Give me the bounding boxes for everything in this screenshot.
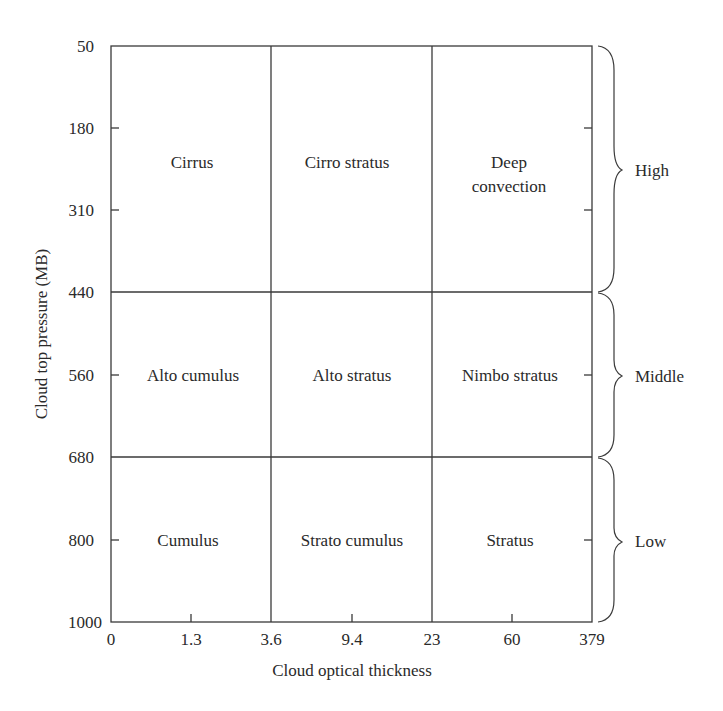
cell-stratus: Stratus [486,531,533,550]
y-tick-label: 440 [69,283,95,302]
cell-alto-stratus: Alto stratus [313,366,392,385]
x-tick-label: 1.3 [180,630,201,649]
cloud-classification-diagram: 50 180 310 440 560 680 800 1000 0 1.3 3.… [0,0,723,711]
y-tick-label: 310 [69,201,95,220]
cell-cirro-stratus: Cirro stratus [305,153,390,172]
y-tick-label: 180 [69,119,95,138]
cell-cumulus: Cumulus [157,531,218,550]
cell-nimbo-stratus: Nimbo stratus [462,366,558,385]
x-tick-label: 60 [504,630,521,649]
y-tick-label: 800 [69,531,95,550]
cell-deep-convection-line2: convection [472,177,547,196]
x-tick-label: 3.6 [260,630,281,649]
y-axis-title: Cloud top pressure (MB) [32,249,51,419]
band-label-high: High [635,161,670,180]
x-axis-tick-labels: 0 1.3 3.6 9.4 23 60 379 [107,630,605,649]
row-low-cells: Cumulus Strato cumulus Stratus [157,531,533,550]
x-tick-label: 9.4 [341,630,363,649]
brace-middle-icon [598,293,622,457]
cell-alto-cumulus: Alto cumulus [147,366,239,385]
band-label-low: Low [635,532,667,551]
cell-cirrus: Cirrus [171,153,214,172]
x-axis-ticks [191,614,512,622]
row-high-cells: Cirrus Cirro stratus Deep convection [171,153,547,196]
x-tick-label: 379 [579,630,605,649]
x-tick-label: 0 [107,630,116,649]
y-axis-tick-labels: 50 180 310 440 560 680 800 1000 [68,37,102,632]
cell-strato-cumulus: Strato cumulus [301,531,403,550]
y-tick-label: 680 [69,448,95,467]
x-tick-label: 23 [424,630,441,649]
y-tick-label: 1000 [68,613,102,632]
row-middle-cells: Alto cumulus Alto stratus Nimbo stratus [147,366,558,385]
band-label-middle: Middle [635,367,684,386]
x-axis-title: Cloud optical thickness [272,661,432,680]
cell-deep-convection-line1: Deep [491,153,527,172]
y-tick-label: 560 [69,366,95,385]
brace-low-icon [598,458,622,622]
brace-high-icon [598,46,622,292]
y-tick-label: 50 [77,37,94,56]
